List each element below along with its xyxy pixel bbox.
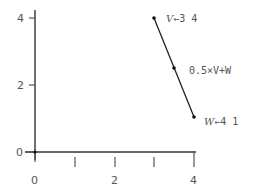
point-midpoint xyxy=(172,66,176,70)
y-tick-label-0: 0 xyxy=(16,146,23,159)
label-w: W←4 1 xyxy=(204,116,238,127)
point-w xyxy=(192,115,196,119)
x-tick-label-2: 2 xyxy=(111,174,118,187)
y-tick-label-4: 4 xyxy=(17,12,24,25)
origin-point xyxy=(33,150,36,153)
x-tick-label-4: 4 xyxy=(190,174,197,187)
point-v xyxy=(152,16,156,20)
vector-diagram: 4 2 0 0 2 4 V←3 4 0.5×V+W W←4 1 xyxy=(0,0,259,196)
label-v: V←3 4 xyxy=(166,13,197,24)
y-tick-label-2: 2 xyxy=(17,79,24,92)
x-tick-label-0: 0 xyxy=(31,174,38,187)
label-midpoint: 0.5×V+W xyxy=(189,65,232,76)
